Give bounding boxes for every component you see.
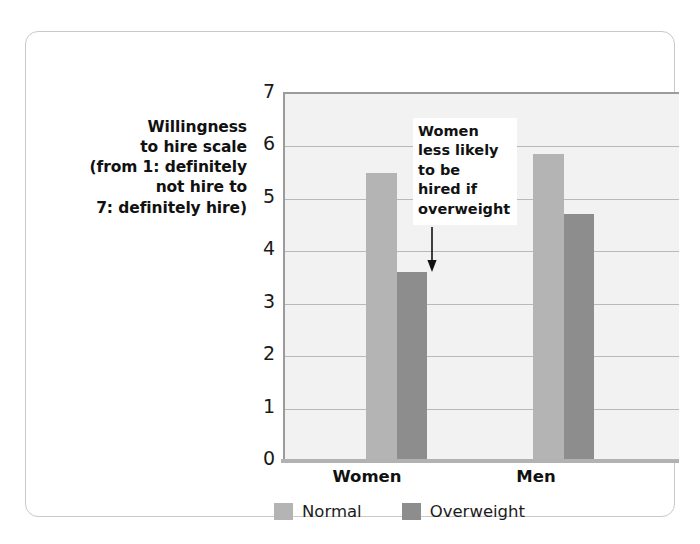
- bar-women-overweight: [397, 272, 427, 461]
- y-tick-label-7: 7: [241, 80, 275, 102]
- gridline-4: [285, 251, 679, 252]
- x-axis-line: [281, 459, 679, 463]
- x-axis-label-women: Women: [312, 467, 422, 486]
- annotation-callout: Women less likely to be hired if overwei…: [413, 118, 517, 225]
- y-tick-label-0: 0: [241, 447, 275, 469]
- legend-swatch-overweight: [402, 503, 421, 520]
- gridline-1: [285, 409, 679, 410]
- gridline-2: [285, 356, 679, 357]
- bar-men-normal: [533, 154, 564, 461]
- y-tick-label-1: 1: [241, 395, 275, 417]
- y-axis-caption: Willingness to hire scale (from 1: defin…: [62, 117, 247, 218]
- gridline-3: [285, 304, 679, 305]
- x-axis-label-men: Men: [481, 467, 591, 486]
- down-arrow-icon: [425, 227, 439, 273]
- y-tick-label-2: 2: [241, 342, 275, 364]
- figure-card: Willingness to hire scale (from 1: defin…: [25, 31, 675, 517]
- legend-label-overweight: Overweight: [430, 502, 525, 521]
- bar-men-overweight: [564, 214, 594, 461]
- chart-legend: Normal Overweight: [274, 502, 551, 521]
- bar-women-normal: [366, 173, 397, 461]
- y-tick-label-5: 5: [241, 185, 275, 207]
- annotation-text: Women less likely to be hired if overwei…: [418, 122, 512, 219]
- y-tick-label-4: 4: [241, 237, 275, 259]
- legend-entry-overweight: Overweight: [402, 502, 525, 521]
- y-tick-label-3: 3: [241, 290, 275, 312]
- legend-label-normal: Normal: [302, 502, 362, 521]
- legend-swatch-normal: [274, 503, 293, 520]
- y-tick-label-6: 6: [241, 132, 275, 154]
- legend-entry-normal: Normal: [274, 502, 362, 521]
